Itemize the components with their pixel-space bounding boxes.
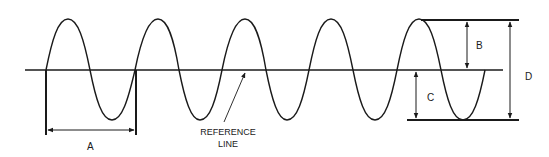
waveform-diagram: A B C D REFERENCE LINE <box>0 0 549 157</box>
label-d: D <box>525 71 532 82</box>
reference-line-label-2: LINE <box>188 139 268 150</box>
label-c: C <box>427 92 434 103</box>
reference-line-label-1: REFERENCE <box>188 127 268 138</box>
diagram-canvas <box>0 0 549 157</box>
reference-pointer-arrow <box>224 73 245 122</box>
label-b: B <box>476 40 483 51</box>
label-a: A <box>87 141 94 152</box>
